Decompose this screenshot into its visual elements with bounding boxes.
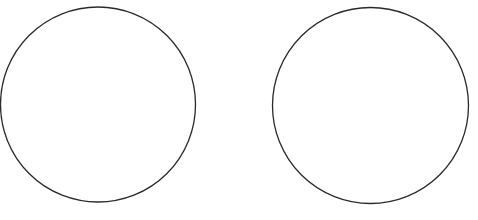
left-circle (1, 7, 196, 202)
diagram-canvas (0, 0, 478, 220)
right-circle (273, 8, 469, 204)
